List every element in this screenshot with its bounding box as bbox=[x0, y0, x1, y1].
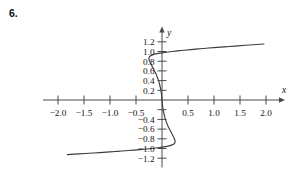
y-tick-label: 1.0 bbox=[143, 47, 155, 57]
y-tick-label: −0.4 bbox=[138, 115, 155, 125]
y-axis-arrow-icon bbox=[159, 27, 164, 33]
graph-plot: −2.0−1.5−1.0−0.50.51.01.52.01.21.00.80.6… bbox=[0, 0, 295, 184]
curve-group bbox=[67, 44, 264, 155]
x-tick-label: −2.0 bbox=[50, 108, 67, 118]
x-tick-label: −1.0 bbox=[102, 108, 119, 118]
y-tick-label: −0.6 bbox=[138, 124, 155, 134]
x-axis-arrow-icon bbox=[279, 97, 285, 102]
y-tick-label: −0.8 bbox=[138, 134, 155, 144]
x-tick-label: 0.5 bbox=[182, 108, 194, 118]
y-axis-name-label: y bbox=[166, 28, 172, 38]
x-axis-name-label: x bbox=[281, 85, 287, 95]
x-tick-label: 2.0 bbox=[260, 108, 272, 118]
y-tick-label: 0.6 bbox=[143, 66, 155, 76]
y-tick-label: 0.4 bbox=[143, 76, 155, 86]
y-tick-label: −1.2 bbox=[138, 154, 155, 164]
y-tick-label: 1.2 bbox=[143, 37, 155, 47]
figure-container: 6. −2.0−1.5−1.0−0.50.51.01.52.01.21.00.8… bbox=[0, 0, 295, 184]
x-tick-label: 1.5 bbox=[234, 108, 246, 118]
y-tick-label: 0.8 bbox=[143, 57, 155, 67]
data-curve bbox=[67, 44, 264, 155]
x-tick-label: −1.5 bbox=[76, 108, 93, 118]
x-tick-label: 1.0 bbox=[208, 108, 220, 118]
y-tick-label: 0.2 bbox=[143, 86, 155, 96]
y-tick-label: −1.0 bbox=[138, 144, 155, 154]
axis-name-group: xy bbox=[166, 28, 287, 95]
